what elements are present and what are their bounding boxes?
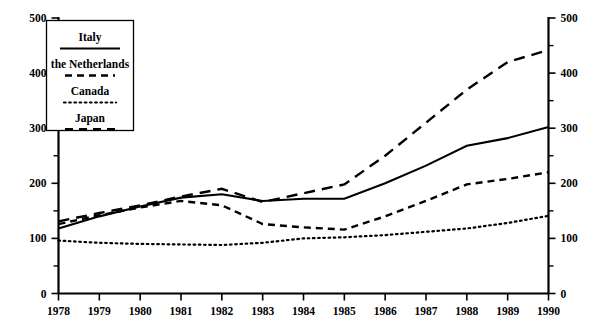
legend-label-canada: Canada [71,85,110,97]
x-axis-tick-label: 1985 [333,305,356,317]
x-axis-tick-label: 1984 [292,305,315,317]
x-axis-tick-label: 1988 [455,305,478,317]
x-axis-tick-label: 1987 [415,305,438,317]
y-axis-left-tick-label: 0 [41,288,47,300]
line-chart: 0100200300400500 0100200300400500 197819… [0,0,605,326]
y-axis-left-tick-label: 500 [29,12,47,24]
legend: Italythe NetherlandsCanadaJapan [47,21,134,131]
x-axis-tick-label: 1980 [129,305,152,317]
y-axis-left-tick-label: 400 [29,67,47,79]
x-axis-tick-label: 1989 [496,305,519,317]
x-axis-tick-label: 1983 [251,305,274,317]
series-line-canada [59,216,549,245]
y-axis-right-tick-label: 300 [561,122,579,134]
x-axis-tick-label: 1978 [47,305,70,317]
y-axis-right-tick-label: 500 [561,12,579,24]
x-axis-tick-label: 1982 [210,305,233,317]
legend-label-italy: Italy [79,31,102,44]
y-axis-right-tick-label: 200 [561,177,579,189]
legend-label-japan: Japan [75,112,106,125]
series-line-japan [59,172,549,229]
y-axis-left-tick-label: 200 [29,177,47,189]
y-axis-right-labels: 0100200300400500 [561,12,579,300]
x-axis-labels: 1978197919801981198219831984198519861987… [47,305,560,317]
y-axis-right-tick-label: 400 [561,67,579,79]
chart-plot-area: 0100200300400500 0100200300400500 197819… [0,0,605,326]
x-axis-tick-label: 1981 [170,305,193,317]
y-axis-right-tick-label: 0 [561,288,567,300]
y-axis-left-tick-label: 300 [29,122,47,134]
x-axis-tick-label: 1986 [374,305,397,317]
y-axis-right-tick-label: 100 [561,232,579,244]
legend-label-netherlands: the Netherlands [51,58,130,70]
x-axis-tick-label: 1979 [88,305,111,317]
y-axis-left-labels: 0100200300400500 [29,12,47,300]
y-axis-left-tick-label: 100 [29,232,47,244]
series-line-italy [59,127,549,228]
x-axis-tick-label: 1990 [537,305,560,317]
